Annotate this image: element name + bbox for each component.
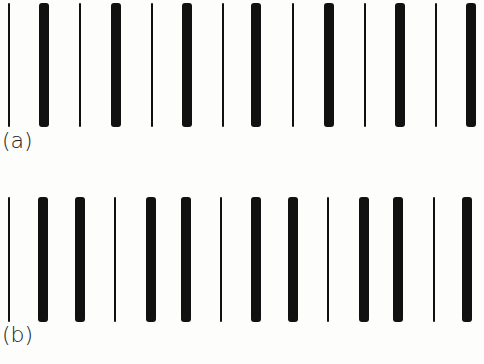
thin-bar <box>435 3 437 127</box>
thin-bar <box>222 3 224 127</box>
thick-bar <box>462 197 472 322</box>
panel-b <box>0 197 484 322</box>
thick-bar <box>39 3 49 127</box>
thick-bar <box>466 3 476 127</box>
thin-bar <box>292 3 294 127</box>
thick-bar <box>182 3 192 127</box>
thick-bar <box>181 197 191 322</box>
thick-bar <box>288 197 298 322</box>
panel-b-label: (b) <box>2 322 33 347</box>
thin-bar <box>364 3 366 127</box>
thick-bar <box>359 197 369 322</box>
panel-a-label: (a) <box>2 128 33 153</box>
thick-bar <box>38 197 48 322</box>
thick-bar <box>393 197 403 322</box>
thick-bar <box>111 3 121 127</box>
thin-bar <box>220 197 222 322</box>
thin-bar <box>433 197 435 322</box>
thick-bar <box>251 3 261 127</box>
thick-bar <box>324 3 334 127</box>
thick-bar <box>251 197 261 322</box>
thin-bar <box>79 3 81 127</box>
thick-bar <box>75 197 85 322</box>
thick-bar <box>395 3 405 127</box>
thin-bar <box>8 197 10 322</box>
thick-bar <box>146 197 156 322</box>
thin-bar <box>327 197 329 322</box>
thin-bar <box>151 3 153 127</box>
thin-bar <box>8 3 10 127</box>
thin-bar <box>114 197 116 322</box>
panel-a <box>0 3 484 127</box>
